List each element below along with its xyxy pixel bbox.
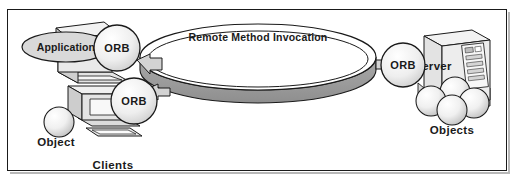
client-object: Object [37,107,75,148]
server-orb-badge: ORB [381,43,425,87]
desktop-orb-badge: ORB [111,78,157,124]
clients-group-label: Clients [92,159,133,171]
rmi-ring: Remote Method Invocation [140,24,376,103]
orb-architecture-illustration: Remote Method Invocation [0,0,516,189]
server-orb-label: ORB [390,59,415,71]
diagram-stage: Remote Method Invocation [0,0,516,189]
diagram-canvas: Remote Method Invocation [0,0,516,189]
server-objects-label: Objects [430,124,474,136]
desktop-orb-label: ORB [121,95,146,107]
server-bay-slot [475,46,482,52]
client-object-label: Object [37,136,75,148]
application-label: Application [37,41,95,53]
ring-label: Remote Method Invocation [189,31,328,43]
server-object-sphere [437,95,467,125]
laptop-orb-badge: ORB [94,25,140,71]
server-bay-slot [465,47,474,53]
laptop-orb-label: ORB [104,42,129,54]
client-object-sphere [44,107,74,137]
desktop-keyboard-keys [92,130,136,134]
